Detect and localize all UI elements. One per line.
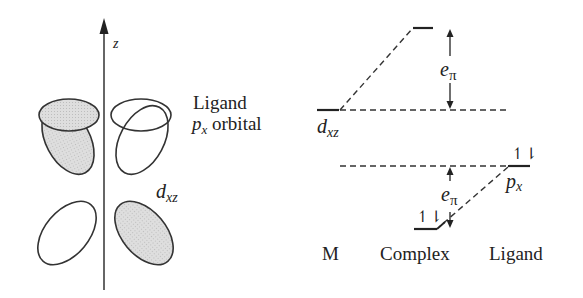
epi-lower-arrowhead-up-icon	[447, 167, 454, 175]
column-label-complex: Complex	[380, 243, 450, 264]
dxz-orbital-label: dxz	[156, 180, 178, 205]
electron-pair-px-icon: ↿⇂	[511, 145, 538, 162]
dxz-lobe-lower-left	[26, 191, 107, 276]
dxz-lobe-upper-right	[105, 97, 179, 183]
ligand-orbital-label-line1: Ligand	[193, 92, 247, 113]
epi-upper-label: eπ	[440, 58, 457, 83]
epi-upper-arrowhead-down-icon	[447, 101, 454, 109]
ligand-px-lobe-left	[39, 99, 99, 131]
dxz-level-label: dxz	[317, 115, 339, 140]
ligand-orbital-label-line2: px orbital	[190, 113, 262, 137]
z-axis-arrowhead-icon	[100, 18, 109, 34]
pi-bonding-diagram: z Ligand px orbital dxz	[0, 0, 583, 298]
column-label-metal: M	[322, 243, 339, 264]
px-level-label: px	[504, 170, 523, 194]
ligand-px-lobe-right	[111, 99, 171, 131]
electron-pair-complex-icon: ↿⇂	[416, 208, 443, 225]
column-label-ligand: Ligand	[489, 243, 543, 264]
z-axis-label: z	[112, 36, 119, 51]
orbital-sketch: z Ligand px orbital dxz	[26, 18, 261, 290]
epi-lower-arrowhead-down-icon	[447, 220, 454, 228]
epi-lower-label: eπ	[441, 183, 458, 208]
epi-upper-arrowhead-up-icon	[447, 29, 454, 37]
energy-level-diagram: eπ eπ ↿⇂ ↿⇂ dxz px M Complex Ligand	[317, 28, 543, 264]
dashed-dxz-to-antibonding	[340, 28, 413, 110]
